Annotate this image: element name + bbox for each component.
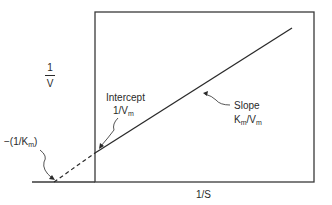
intercept-value-main: 1/V	[113, 105, 128, 116]
slope-title: Slope	[234, 100, 260, 111]
intercept-value: 1/Vm	[113, 105, 134, 116]
regression-line	[95, 28, 292, 153]
intercept-value-sub: m	[128, 110, 134, 117]
y-axis-label: 1 V	[43, 62, 57, 89]
x-intercept-label: −(1/Km)	[4, 136, 37, 147]
intercept-arrow	[101, 118, 118, 146]
slope-v: /V	[247, 114, 256, 125]
y-axis-numerator: 1	[47, 62, 53, 73]
slope-value: Km/Vm	[234, 114, 262, 125]
x-intercept-prefix: −(1/K	[4, 136, 28, 147]
x-axis-label: 1/S	[196, 189, 211, 200]
y-axis-denominator: V	[47, 78, 54, 89]
extrapolated-line	[54, 153, 95, 182]
x-intercept-suffix: )	[34, 136, 37, 147]
fraction-bar	[45, 75, 55, 76]
slope-k: K	[234, 114, 241, 125]
slope-v-sub: m	[256, 119, 262, 126]
slope-arrowhead-icon	[203, 91, 208, 96]
plot-canvas	[0, 0, 332, 205]
x-intercept-arrow	[40, 150, 52, 178]
intercept-title: Intercept	[106, 92, 145, 103]
slope-arrow	[205, 94, 230, 105]
